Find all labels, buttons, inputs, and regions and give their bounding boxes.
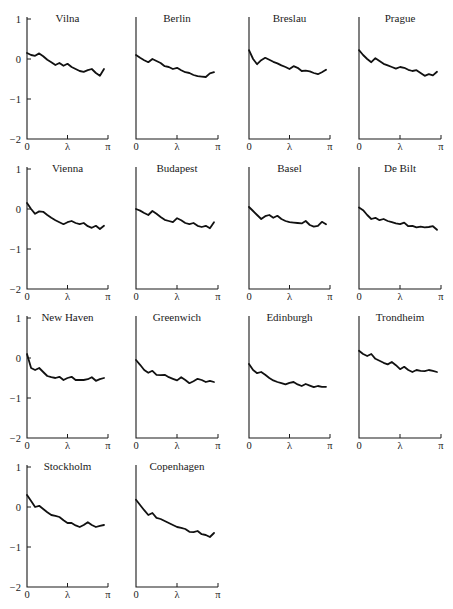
panel-title: Prague [385, 12, 416, 24]
series-line [136, 500, 214, 537]
panel-prague: 0λπPrague [356, 12, 444, 152]
panel-title: Trondheim [376, 311, 425, 323]
x-tick-label: π [215, 141, 221, 152]
panel-title: Breslau [273, 12, 307, 24]
panel-title: Vienna [52, 162, 83, 174]
y-tick-label: −2 [10, 134, 21, 145]
panel-basel: 0λπBasel [246, 162, 333, 302]
x-tick-label: 0 [246, 291, 251, 302]
axes [136, 316, 218, 438]
x-tick-label: π [327, 291, 333, 302]
x-tick-label: π [215, 589, 221, 600]
panel-title: Copenhagen [150, 460, 205, 472]
series-line [27, 495, 104, 527]
axes [27, 316, 108, 438]
series-line [359, 207, 437, 229]
series-line [249, 364, 326, 387]
x-tick-label: 0 [246, 141, 251, 152]
x-tick-label: λ [287, 291, 293, 302]
x-tick-label: λ [287, 440, 293, 451]
series-line [27, 203, 104, 229]
panel-title: Edinburgh [266, 311, 313, 323]
panel-title: New Haven [41, 311, 94, 323]
panel-edinburgh: 0λπEdinburgh [246, 311, 333, 451]
x-tick-label: π [105, 589, 111, 600]
x-tick-label: π [438, 440, 444, 451]
x-tick-label: π [105, 291, 111, 302]
x-tick-label: λ [287, 141, 293, 152]
x-tick-label: λ [397, 291, 403, 302]
panel-title: Basel [277, 162, 301, 174]
series-line [27, 354, 104, 381]
x-tick-label: 0 [356, 440, 361, 451]
panel-title: Vilna [56, 12, 80, 24]
x-tick-label: 0 [356, 291, 361, 302]
y-tick-label: −1 [10, 244, 21, 255]
x-tick-label: 0 [24, 589, 29, 600]
y-tick-label: 0 [16, 204, 21, 215]
figure-grid: 0λπ10−1−2Vilna0λπBerlin0λπBreslau0λπPrag… [0, 0, 453, 609]
y-tick-label: 0 [16, 502, 21, 513]
panel-title: Berlin [163, 12, 191, 24]
panel-copenhagen: 0λπCopenhagen [133, 460, 221, 600]
small-multiples-plot: 0λπ10−1−2Vilna0λπBerlin0λπBreslau0λπPrag… [0, 0, 453, 609]
x-tick-label: λ [65, 141, 71, 152]
series-line [249, 207, 326, 227]
x-tick-label: λ [174, 589, 180, 600]
y-tick-label: −1 [10, 94, 21, 105]
y-tick-label: −2 [10, 284, 21, 295]
x-tick-label: λ [174, 440, 180, 451]
x-tick-label: λ [174, 141, 180, 152]
axes [136, 167, 218, 289]
x-tick-label: 0 [24, 291, 29, 302]
panel-stockholm: 0λπ10−1−2Stockholm [10, 460, 112, 600]
axes [249, 17, 330, 139]
y-tick-label: 0 [16, 353, 21, 364]
axes [27, 167, 108, 289]
y-tick-label: −1 [10, 393, 21, 404]
axes [249, 167, 330, 289]
x-tick-label: λ [174, 291, 180, 302]
x-tick-label: 0 [24, 141, 29, 152]
x-tick-label: λ [65, 440, 71, 451]
y-tick-label: 1 [16, 462, 21, 473]
panel-title: De Bilt [384, 162, 416, 174]
x-tick-label: π [215, 291, 221, 302]
x-tick-label: 0 [356, 141, 361, 152]
y-tick-label: −1 [10, 542, 21, 553]
x-tick-label: λ [397, 141, 403, 152]
axes [249, 316, 330, 438]
axes [136, 17, 218, 139]
x-tick-label: π [327, 141, 333, 152]
x-tick-label: π [105, 440, 111, 451]
panel-title: Greenwich [153, 311, 202, 323]
panel-title: Stockholm [44, 460, 92, 472]
series-line [136, 360, 214, 383]
x-tick-label: π [438, 141, 444, 152]
series-line [359, 351, 437, 372]
x-tick-label: π [215, 440, 221, 451]
x-tick-label: 0 [133, 589, 138, 600]
x-tick-label: λ [397, 440, 403, 451]
panel-vienna: 0λπ10−1−2Vienna [10, 162, 112, 302]
y-tick-label: 0 [16, 54, 21, 65]
y-tick-label: −2 [10, 433, 21, 444]
x-tick-label: λ [65, 589, 71, 600]
series-line [136, 55, 214, 77]
y-tick-label: 1 [16, 14, 21, 25]
axes [359, 17, 441, 139]
panel-de-bilt: 0λπDe Bilt [356, 162, 444, 302]
series-line [249, 50, 326, 74]
x-tick-label: 0 [133, 291, 138, 302]
x-tick-label: π [438, 291, 444, 302]
series-line [359, 50, 437, 76]
y-tick-label: 1 [16, 313, 21, 324]
panel-breslau: 0λπBreslau [246, 12, 333, 152]
series-line [136, 209, 214, 228]
x-tick-label: 0 [24, 440, 29, 451]
panel-berlin: 0λπBerlin [133, 12, 221, 152]
x-tick-label: 0 [133, 440, 138, 451]
x-tick-label: π [105, 141, 111, 152]
y-tick-label: 1 [16, 164, 21, 175]
panel-trondheim: 0λπTrondheim [356, 311, 444, 451]
